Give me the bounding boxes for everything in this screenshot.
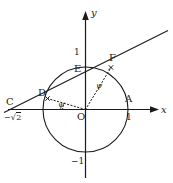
point-label-a: A: [125, 94, 132, 104]
x-axis-arrowhead: [150, 106, 159, 113]
y-tick-negative-one: −1: [71, 157, 84, 166]
angle-label-right: ψ: [96, 82, 102, 90]
geometry-figure: y x O 1 −1 1 −√2 A C D E F ψ ψ: [0, 0, 173, 183]
origin-label: O: [77, 112, 85, 122]
radicand-value: 2: [16, 112, 21, 122]
y-axis: [82, 11, 89, 178]
minus-sign: −: [4, 113, 11, 122]
point-label-c: C: [6, 97, 14, 107]
point-label-e: E: [74, 64, 81, 74]
point-label-f: F: [109, 53, 116, 63]
figure-canvas: [0, 0, 173, 183]
x-tick-negative-sqrt2: −√2: [4, 114, 21, 122]
y-axis-arrowhead: [82, 11, 89, 20]
point-label-d: D: [38, 88, 46, 98]
x-tick-positive-one: 1: [126, 113, 132, 122]
y-axis-label: y: [91, 8, 97, 18]
radius-to-d-dotted: [48, 99, 86, 110]
angle-label-left: ψ: [58, 101, 64, 109]
x-axis-label: x: [161, 105, 167, 115]
y-tick-positive-one: 1: [74, 48, 80, 57]
